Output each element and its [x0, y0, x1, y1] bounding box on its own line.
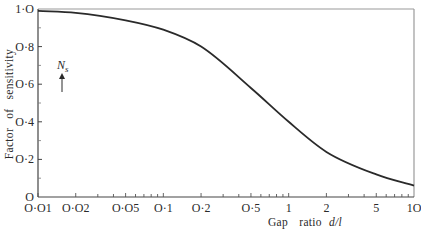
ns-annotation: Ns: [56, 58, 69, 92]
y-tick-label: 1·O: [15, 2, 34, 16]
x-axis-ticks: O·O1O·O2O·O5O·1O·2O·51251O: [24, 193, 421, 215]
sensitivity-curve: [38, 11, 414, 186]
y-axis-label: Factor of sensitivity: [3, 49, 16, 159]
svg-text:Ns: Ns: [56, 58, 69, 74]
y-tick-label: O·2: [15, 152, 34, 166]
y-tick-label: O·8: [15, 40, 34, 54]
y-tick-label: O·6: [15, 77, 34, 91]
x-tick-label: O·1: [154, 201, 173, 215]
x-tick-label: 1O: [407, 201, 421, 215]
x-tick-label: 1: [286, 201, 292, 215]
sensitivity-chart: OO·2O·4O·6O·81·O O·O1O·O2O·O5O·1O·2O·512…: [0, 0, 421, 230]
x-tick-label: 5: [373, 201, 379, 215]
x-tick-label: O·O2: [62, 201, 89, 215]
plot-frame: [38, 9, 414, 197]
x-axis-label: Gap ratio d/l: [268, 216, 342, 229]
x-tick-label: O·2: [192, 201, 211, 215]
x-tick-label: O·O5: [112, 201, 139, 215]
x-tick-label: O·5: [242, 201, 261, 215]
annotation-sub: s: [65, 64, 69, 74]
svg-text:Gap ratio d/l: Gap ratio d/l: [268, 216, 342, 229]
x-tick-label: 2: [323, 201, 329, 215]
x-tick-label: O·O1: [24, 201, 51, 215]
y-tick-label: O·4: [15, 115, 34, 129]
svg-text:Factor of sensitiv: Factor of sensitivity: [3, 49, 16, 159]
